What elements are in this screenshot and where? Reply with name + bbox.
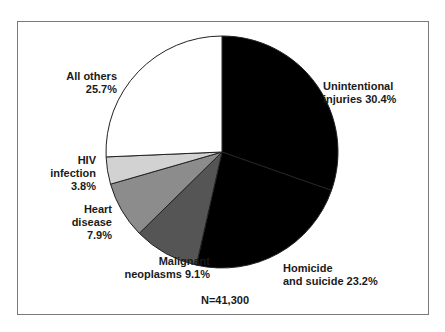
label-homicide-suicide: Homicide and suicide 23.2% <box>283 262 378 288</box>
label-hiv-infection: HIV infection 3.8% <box>40 154 96 193</box>
label-all-others: All others 25.7% <box>50 70 117 96</box>
pie-slice <box>106 36 222 157</box>
sample-size-note: N=41,300 <box>201 294 249 307</box>
label-unintentional-injuries: Unintentional injuries 30.4% <box>323 80 396 106</box>
label-malignant-neoplasms: Malignant neoplasms 9.1% <box>98 255 210 281</box>
label-heart-disease: Heart disease 7.9% <box>50 203 112 242</box>
